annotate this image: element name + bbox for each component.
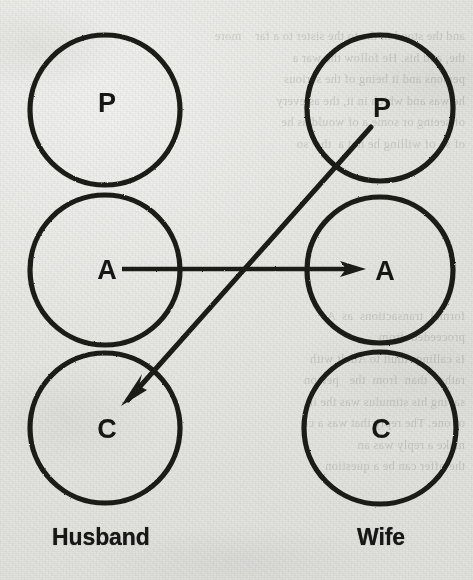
wife-parent-letter: P (373, 93, 391, 123)
response-transaction-arrow (121, 127, 371, 406)
diagram-svg: P A C P A C (0, 0, 473, 580)
ego-state-diagram: P A C P A C (0, 0, 473, 580)
husband-child-letter: C (97, 414, 117, 444)
figure-canvas: and the stood in the to the sister to a … (0, 0, 473, 580)
husband-parent-letter: P (98, 88, 116, 118)
husband-adult-letter: A (97, 255, 117, 285)
stimulus-transaction-arrow (122, 261, 366, 277)
wife-child-letter: C (371, 414, 391, 444)
husband-column-label: Husband (52, 524, 150, 551)
wife-column-label: Wife (357, 524, 405, 551)
wife-adult-letter: A (375, 256, 395, 286)
